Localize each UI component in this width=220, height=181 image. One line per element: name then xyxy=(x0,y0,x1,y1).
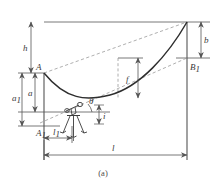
figure-container: h b f a a1 i xyxy=(0,0,220,181)
figure-caption: (a) xyxy=(98,168,108,178)
dimension-b: b xyxy=(201,22,209,58)
point-b1-label: B1 xyxy=(190,62,200,74)
dimension-h: h xyxy=(23,22,31,73)
dimension-a1: a1 xyxy=(12,73,22,126)
angle-theta: θ xyxy=(88,96,94,112)
theta-label: θ xyxy=(89,96,94,106)
tripod-leg-right xyxy=(77,116,84,133)
reference-lines xyxy=(18,22,210,160)
h-label: h xyxy=(23,43,28,53)
a-label: a xyxy=(28,88,33,98)
dimension-i: i xyxy=(94,105,106,124)
catenary-cable-curve xyxy=(44,22,187,98)
a1-label: a1 xyxy=(12,93,21,105)
cable-path xyxy=(44,22,187,98)
i-label: i xyxy=(103,111,106,121)
telescope-barrel xyxy=(66,105,79,111)
dimension-l: l xyxy=(44,143,187,155)
f-label: f xyxy=(126,74,130,84)
l1-label: l1 xyxy=(53,127,60,139)
chord-a-to-b-dashed xyxy=(44,22,187,73)
survey-diagram-svg: h b f a a1 i xyxy=(0,0,220,181)
point-a-label: A xyxy=(35,62,42,72)
dimension-a: a xyxy=(28,73,35,112)
point-a1-label: A1 xyxy=(35,128,46,140)
dimension-l1: l1 xyxy=(44,127,72,139)
tripod-leg-left xyxy=(63,116,70,133)
dashed-construction-lines xyxy=(40,22,187,123)
dimension-f: f xyxy=(126,58,138,98)
b-label: b xyxy=(204,35,209,45)
l-label: l xyxy=(112,143,115,153)
